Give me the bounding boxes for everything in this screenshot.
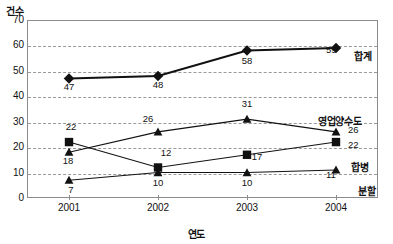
series-name-영업양수도: 영업양수도 (318, 117, 362, 127)
gridline (28, 148, 377, 149)
data-point-label: 22 (66, 122, 77, 132)
x-axis-tick-mark (69, 195, 70, 200)
y-axis-tick-label: 50 (2, 66, 24, 76)
y-axis-tick-label: 60 (2, 40, 24, 50)
y-axis-tick-label: 10 (2, 168, 24, 178)
x-axis-tick-mark (247, 195, 248, 200)
data-point-label: 18 (63, 156, 74, 166)
gridline (28, 72, 377, 73)
series-name-합병: 합병 (351, 163, 368, 173)
y-axis-tick-label: 20 (2, 142, 24, 152)
x-axis-tick-mark (336, 195, 337, 200)
x-axis-tick-mark (158, 195, 159, 200)
y-axis-tick-label: 0 (2, 193, 24, 203)
data-point-label: 58 (242, 56, 253, 66)
y-axis-tick-label: 70 (2, 15, 24, 25)
gridline (28, 174, 377, 175)
series-name-분할: 분할 (358, 187, 375, 197)
data-point-label: 7 (68, 185, 73, 195)
series-name-합계: 합계 (354, 52, 371, 62)
data-point-label: 59 (326, 45, 337, 55)
data-point-label: 26 (143, 114, 154, 124)
data-point-label: 48 (153, 80, 164, 90)
data-point-label: 12 (161, 148, 172, 158)
data-point-label: 10 (242, 178, 253, 188)
y-axis-tick-label: 30 (2, 117, 24, 127)
data-point-label: 31 (242, 99, 253, 109)
data-point-label: 47 (64, 82, 75, 92)
x-axis-tick-labels: 2001200220032004 (27, 200, 378, 216)
y-axis-tick-label: 40 (2, 91, 24, 101)
x-axis-tick-label: 2001 (58, 202, 80, 213)
line-chart: 건수 010203040506070 2001200220032004 4748… (0, 0, 393, 244)
y-axis-tick-labels: 010203040506070 (0, 20, 24, 198)
gridline (28, 97, 377, 98)
data-point-label: 10 (153, 178, 164, 188)
data-point-label: 22 (348, 140, 359, 150)
x-axis-tick-label: 2004 (325, 202, 347, 213)
data-point-label: 11 (326, 170, 336, 180)
x-axis-tick-label: 2003 (236, 202, 258, 213)
x-axis-title: 연도 (0, 226, 393, 241)
x-axis-tick-label: 2002 (147, 202, 169, 213)
data-point-label: 17 (252, 152, 263, 162)
gridline (28, 46, 377, 47)
